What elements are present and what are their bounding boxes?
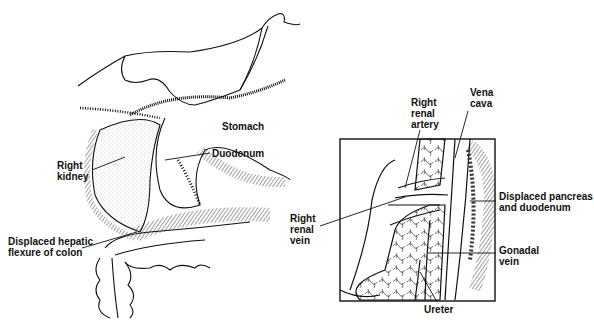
- anatomy-illustration: [0, 0, 594, 325]
- label-ureter: Ureter: [424, 304, 453, 315]
- label-displaced-pancreas-duodenum: Displaced pancreas and duodenum: [499, 191, 593, 213]
- label-vena-cava: Vena cava: [470, 87, 493, 109]
- label-stomach: Stomach: [222, 121, 264, 132]
- label-displaced-hepatic-flexure: Displaced hepatic flexure of colon: [8, 236, 93, 258]
- right-anatomy-drawing: [340, 139, 495, 301]
- left-anatomy-drawing: [78, 14, 300, 318]
- label-right-kidney: Right kidney: [57, 160, 89, 182]
- label-gonadal-vein: Gonadal vein: [499, 245, 539, 267]
- label-right-renal-vein: Right renal vein: [290, 213, 316, 246]
- label-right-renal-artery: Right renal artery: [411, 97, 439, 130]
- label-duodenum: Duodenum: [212, 148, 264, 159]
